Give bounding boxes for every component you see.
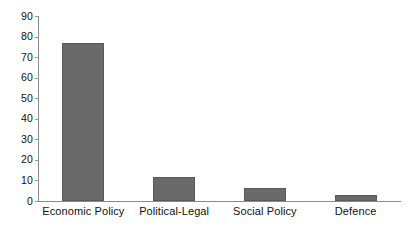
y-axis-tick-label: 20 bbox=[0, 154, 33, 165]
y-axis-tick-label: 50 bbox=[0, 93, 33, 104]
plot-area bbox=[38, 16, 401, 201]
y-axis-tick-label: 10 bbox=[0, 175, 33, 186]
y-axis-tick-label: 40 bbox=[0, 113, 33, 124]
y-axis-tick-label: 90 bbox=[0, 11, 33, 22]
y-axis-tick-label: 80 bbox=[0, 31, 33, 42]
x-axis-line bbox=[38, 201, 401, 202]
y-axis-tick-label: 70 bbox=[0, 52, 33, 63]
bar bbox=[244, 188, 286, 201]
y-axis-tick-label: 30 bbox=[0, 134, 33, 145]
bar bbox=[62, 43, 104, 201]
bar bbox=[335, 195, 377, 201]
bar-chart: 0102030405060708090 Economic PolicyPolit… bbox=[0, 0, 414, 232]
bar bbox=[153, 177, 195, 201]
x-axis-category-label: Defence bbox=[276, 205, 414, 218]
y-axis-tick-label: 60 bbox=[0, 72, 33, 83]
